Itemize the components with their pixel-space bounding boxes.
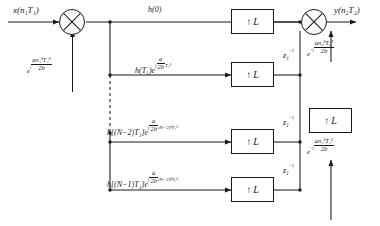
tap-coefficient: h[(N−2)T₁] — [107, 128, 145, 137]
chirp-numerator: an₁²T₁² — [31, 57, 51, 64]
up-arrow-icon: ↑ — [246, 185, 251, 195]
tap-exp-tail: (N−2)²T₁² — [158, 125, 178, 130]
chirp-fraction: an₂²T₂²2b — [314, 40, 334, 54]
junction-sum-1 — [298, 73, 301, 76]
tap-fraction: a2b — [157, 56, 165, 70]
up-arrow-icon: ↑ — [246, 17, 251, 27]
tap-numerator: a — [149, 118, 157, 125]
upsampler-row-0[interactable]: ↑ L — [231, 9, 274, 34]
tap-coefficient: h(0) — [148, 5, 161, 14]
tap-exp-tail: (N−2)²T₁² — [158, 177, 178, 182]
chirp-numerator: an₁²T₁² — [314, 138, 334, 145]
chirp-denominator: 2b — [31, 64, 51, 72]
tap-n-1-label: h[(N−1)T₁]eja2b(N−2)²T₁² — [107, 173, 178, 189]
chirp-out-upper-label: e−jan₂²T₂²2b — [307, 43, 334, 58]
tap-numerator: a — [149, 170, 157, 177]
chirp-denominator: 2b — [314, 145, 334, 153]
tap-n-2-label: h[(N−2)T₁]eja2b(N−2)²T₁² — [107, 121, 178, 137]
chirp-fraction: an₁²T₁²2b — [31, 57, 51, 71]
junction-tap-0 — [108, 20, 111, 23]
tap-coefficient: h(T₁) — [135, 66, 152, 75]
upsampler-row-1[interactable]: ↑ L — [231, 62, 274, 87]
tap-denominator: 2b — [149, 125, 157, 133]
tap-denominator: 2b — [157, 63, 165, 71]
chirp-input-label: ejan₁²T₁²2b — [27, 60, 52, 75]
multiplier-output[interactable] — [301, 9, 327, 35]
upsampler-factor: L — [253, 17, 259, 27]
upsampler-output[interactable]: ↑ L — [309, 108, 352, 133]
tap-coefficient: h[(N−1)T₁] — [107, 180, 145, 189]
chirp-numerator: an₂²T₂² — [314, 40, 334, 47]
delay-exponent: −1 — [289, 163, 294, 168]
upsampler-factor: L — [331, 116, 337, 126]
junction-dots — [108, 20, 301, 191]
chirp-denominator: 2b — [314, 47, 334, 55]
upsampler-factor: L — [253, 137, 259, 147]
up-arrow-icon: ↑ — [324, 116, 329, 126]
delay-2-label: z₁−1 — [283, 119, 294, 127]
chirp-fraction: an₁²T₁²2b — [314, 138, 334, 152]
tap-exp-tail: T₁² — [165, 63, 171, 68]
upsampler-row-3[interactable]: ↑ L — [231, 177, 274, 202]
tap-numerator: a — [157, 56, 165, 63]
upsampler-factor: L — [253, 70, 259, 80]
multiplier-input[interactable] — [59, 9, 85, 35]
chirp-out-lower-label: e−jan₁²T₁²2b — [307, 141, 334, 156]
upsampler-row-2[interactable]: ↑ L — [231, 129, 274, 154]
tap-fraction: a2b — [149, 118, 157, 132]
input-signal-label: x(n₁T₁) — [13, 6, 39, 15]
up-arrow-icon: ↑ — [246, 70, 251, 80]
delay-exponent: −1 — [289, 48, 294, 53]
delay-3-label: z₁−1 — [283, 167, 294, 175]
block-diagram-canvas: ↑ L ↑ L ↑ L ↑ L ↑ L x(n₁T₁) y(n₂T₂) ejan… — [0, 0, 380, 226]
up-arrow-icon: ↑ — [246, 137, 251, 147]
delay-exponent: −1 — [289, 115, 294, 120]
output-signal-label: y(n₂T₂) — [334, 6, 360, 15]
tap-0-label: h(0) — [148, 6, 161, 14]
junction-tap-1 — [108, 73, 111, 76]
upsampler-factor: L — [253, 185, 259, 195]
junction-sum-3 — [298, 188, 301, 191]
tap-fraction: a2b — [149, 170, 157, 184]
tap-denominator: 2b — [149, 177, 157, 185]
junction-tap-2 — [108, 140, 111, 143]
delay-1-label: z₁−1 — [283, 52, 294, 60]
junction-tap-3 — [108, 188, 111, 191]
junction-sum-2 — [298, 140, 301, 143]
tap-1-label: h(T₁)eja2bT₁² — [135, 59, 171, 75]
